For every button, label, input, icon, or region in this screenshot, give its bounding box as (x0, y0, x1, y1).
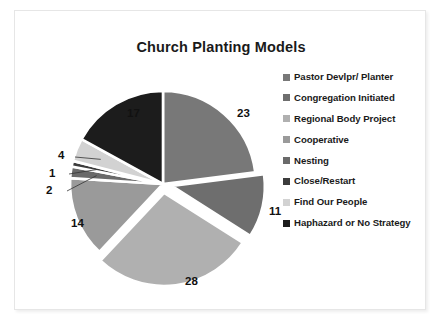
legend-item-label: Cooperative (294, 134, 349, 146)
pie-slices (70, 91, 265, 286)
pie-data-label: 23 (237, 107, 250, 119)
legend-swatch-icon (283, 178, 290, 185)
legend-item-label: Find Our People (294, 196, 367, 208)
pie-slice[interactable] (163, 91, 255, 184)
pie-data-label: 1 (49, 167, 55, 179)
legend-item-label: Haphazard or No Strategy (294, 217, 411, 229)
pie-data-label: 17 (127, 107, 140, 119)
pie-chart: 2311281421417 (41, 79, 286, 294)
legend-item-label: Nesting (294, 155, 329, 167)
pie-data-label: 2 (46, 184, 52, 196)
legend-item-label: Regional Body Project (294, 113, 395, 125)
legend-item-label: Congregation Initiated (294, 92, 395, 104)
legend-item[interactable]: Haphazard or No Strategy (283, 217, 425, 229)
slide-frame: Church Planting Models 2311281421417 Pas… (14, 10, 426, 310)
legend-swatch-icon (283, 74, 290, 81)
legend-item[interactable]: Cooperative (283, 134, 425, 146)
legend-item[interactable]: Pastor Devlpr/ Planter (283, 71, 425, 83)
legend-swatch-icon (283, 157, 290, 164)
legend-swatch-icon (283, 136, 290, 143)
legend-item[interactable]: Find Our People (283, 196, 425, 208)
pie-data-label: 14 (71, 217, 84, 229)
pie-data-label: 11 (269, 205, 281, 217)
chart-title: Church Planting Models (15, 39, 427, 55)
pie-data-label: 28 (185, 275, 198, 287)
legend-swatch-icon (283, 199, 290, 206)
legend-item-label: Pastor Devlpr/ Planter (294, 71, 393, 83)
legend-item[interactable]: Close/Restart (283, 175, 425, 187)
legend-swatch-icon (283, 94, 290, 101)
legend-item[interactable]: Regional Body Project (283, 113, 425, 125)
legend-item[interactable]: Nesting (283, 155, 425, 167)
pie-data-label: 4 (58, 149, 64, 161)
legend-item[interactable]: Congregation Initiated (283, 92, 425, 104)
legend: Pastor Devlpr/ PlanterCongregation Initi… (283, 71, 425, 238)
legend-swatch-icon (283, 115, 290, 122)
legend-swatch-icon (283, 220, 290, 227)
legend-item-label: Close/Restart (294, 175, 355, 187)
